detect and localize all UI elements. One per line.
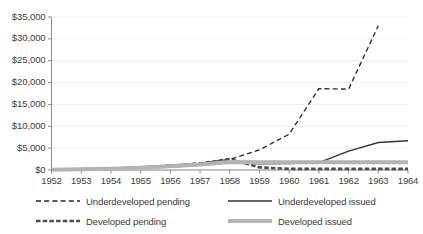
y-tick-label: $30,000	[0, 32, 46, 43]
x-tick-label: 1954	[95, 175, 127, 186]
legend-item-2[interactable]: Developed pending	[36, 214, 166, 228]
legend-item-0[interactable]: Underdeveloped pending	[36, 194, 190, 208]
x-tick-label: 1952	[36, 175, 68, 186]
legend-item-1[interactable]: Underdeveloped issued	[228, 194, 376, 208]
dashed-thick-swatch	[36, 216, 80, 226]
y-tick-label: $10,000	[0, 120, 46, 131]
chart-legend: Underdeveloped pendingUnderdeveloped iss…	[0, 192, 416, 234]
y-tick-label: $15,000	[0, 98, 46, 109]
x-tick-label: 1962	[333, 175, 365, 186]
y-tick-label: $35,000	[0, 11, 46, 22]
gridlines-group	[52, 17, 409, 170]
y-tick-label: $5,000	[0, 142, 46, 153]
x-tick-label: 1955	[125, 175, 157, 186]
legend-label: Developed pending	[86, 216, 166, 227]
x-tick-label: 1964	[392, 175, 423, 186]
y-tick-marks	[48, 17, 52, 170]
x-tick-label: 1957	[184, 175, 216, 186]
y-tick-label: $20,000	[0, 76, 46, 87]
legend-label: Developed issued	[278, 216, 352, 227]
x-tick-label: 1963	[362, 175, 394, 186]
legend-item-3[interactable]: Developed issued	[228, 214, 352, 228]
solid-thick-swatch	[228, 216, 272, 226]
solid-thin-swatch	[228, 196, 272, 206]
x-tick-label: 1959	[243, 175, 275, 186]
x-tick-label: 1953	[65, 175, 97, 186]
series-line-1	[52, 141, 409, 170]
x-tick-label: 1961	[303, 175, 335, 186]
x-tick-label: 1958	[214, 175, 246, 186]
legend-label: Underdeveloped issued	[278, 196, 376, 207]
axis-group	[52, 17, 409, 170]
x-tick-label: 1956	[154, 175, 186, 186]
legend-label: Underdeveloped pending	[86, 196, 190, 207]
dashed-thin-swatch	[36, 196, 80, 206]
x-tick-label: 1960	[273, 175, 305, 186]
y-tick-label: $0	[0, 164, 46, 175]
y-tick-label: $25,000	[0, 54, 46, 65]
